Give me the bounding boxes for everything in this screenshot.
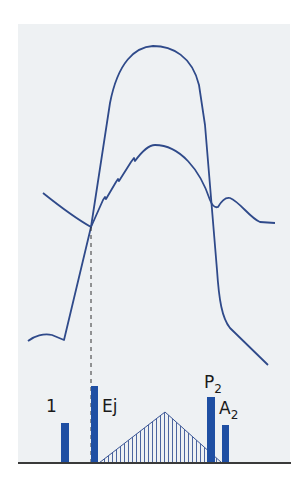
bar-A2 bbox=[222, 425, 229, 463]
bar-P2 bbox=[207, 397, 215, 463]
bar-S1 bbox=[61, 423, 69, 463]
label-S1: 1 bbox=[46, 396, 57, 416]
cardiac-cycle-diagram: 1EjP2A2 bbox=[0, 0, 299, 491]
bar-Ej bbox=[91, 386, 98, 463]
label-Ej: Ej bbox=[102, 396, 117, 416]
panel-background bbox=[18, 24, 290, 464]
